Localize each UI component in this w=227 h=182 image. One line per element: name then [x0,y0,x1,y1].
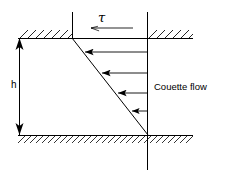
bottom-wall [18,136,193,144]
couette-flow-figure: h τ Couette flow [0,0,227,182]
shear-stress-label: τ [98,11,105,24]
top-wall [18,30,193,39]
couette-flow-label: Couette flow [154,82,207,92]
top-wall-hatching-left [20,30,72,38]
velocity-profile-line [72,38,148,135]
bottom-wall-hatching [18,136,193,143]
velocity-arrows [85,52,148,111]
gap-height-label: h [11,80,17,90]
top-wall-hatching-right [149,30,193,38]
gap-dimension-arrow [16,38,24,135]
